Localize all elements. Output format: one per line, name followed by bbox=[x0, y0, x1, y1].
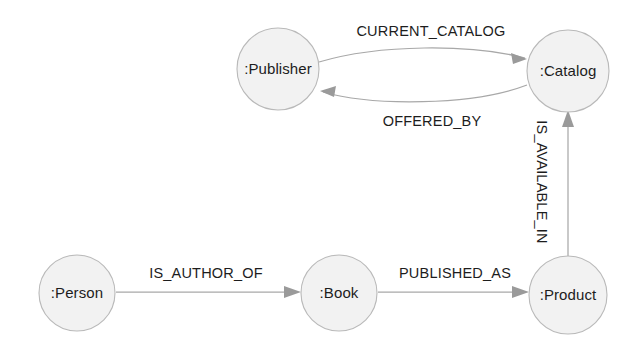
node-catalog-label: :Catalog bbox=[540, 62, 597, 79]
relationship-offered-by[interactable]: OFFERED_BY bbox=[320, 85, 527, 129]
offered-by-arrowhead bbox=[320, 86, 336, 97]
relationship-is-available-in[interactable]: IS_AVAILABLE_IN bbox=[534, 110, 574, 256]
node-product-label: :Product bbox=[540, 286, 597, 303]
current-catalog-label: CURRENT_CATALOG bbox=[356, 23, 505, 39]
offered-by-label: OFFERED_BY bbox=[383, 113, 482, 129]
node-publisher-label: :Publisher bbox=[244, 60, 312, 77]
current-catalog-arrowhead bbox=[511, 53, 527, 64]
is-author-of-label: IS_AUTHOR_OF bbox=[149, 265, 263, 281]
relationship-published-as[interactable]: PUBLISHED_AS bbox=[378, 265, 529, 298]
is-available-in-arrowhead bbox=[562, 110, 574, 127]
relationship-current-catalog[interactable]: CURRENT_CATALOG bbox=[319, 23, 527, 64]
node-book-label: :Book bbox=[320, 284, 359, 301]
node-publisher[interactable]: :Publisher bbox=[237, 28, 319, 110]
node-person[interactable]: :Person bbox=[39, 255, 115, 331]
node-book[interactable]: :Book bbox=[301, 255, 377, 331]
published-as-label: PUBLISHED_AS bbox=[399, 265, 511, 281]
current-catalog-edge-line bbox=[319, 48, 525, 62]
node-person-label: :Person bbox=[51, 284, 103, 301]
published-as-arrowhead bbox=[512, 286, 529, 298]
offered-by-edge-line bbox=[323, 85, 527, 102]
is-author-of-arrowhead bbox=[284, 286, 301, 298]
graph-canvas: CURRENT_CATALOG OFFERED_BY IS_AVAILABLE_… bbox=[0, 0, 639, 354]
is-available-in-label: IS_AVAILABLE_IN bbox=[534, 120, 550, 243]
graph-data-model-diagram: CURRENT_CATALOG OFFERED_BY IS_AVAILABLE_… bbox=[0, 0, 639, 354]
node-product[interactable]: :Product bbox=[529, 256, 607, 334]
relationship-is-author-of[interactable]: IS_AUTHOR_OF bbox=[116, 265, 301, 298]
node-catalog[interactable]: :Catalog bbox=[527, 30, 609, 112]
